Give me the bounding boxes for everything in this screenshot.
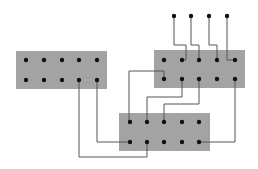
pin-bottom	[162, 140, 166, 144]
wiring-diagram	[0, 0, 258, 169]
pin-right	[215, 58, 219, 62]
pin-bottom	[180, 140, 184, 144]
pin-left	[77, 58, 81, 62]
pin-bottom	[180, 120, 184, 124]
pin-right	[197, 77, 201, 81]
pin-right	[215, 77, 219, 81]
pin-left	[60, 58, 64, 62]
pin-left	[42, 78, 46, 82]
pin-right	[197, 58, 201, 62]
pin-left	[95, 58, 99, 62]
pin-left	[60, 78, 64, 82]
pin-bottom	[128, 120, 132, 124]
terminal-pin	[207, 14, 211, 18]
pin-bottom	[145, 140, 149, 144]
pin-right	[180, 58, 184, 62]
pin-bottom	[197, 140, 201, 144]
pin-right	[162, 58, 166, 62]
pin-left	[77, 78, 81, 82]
block-left	[16, 51, 107, 89]
pin-bottom	[197, 120, 201, 124]
pin-left	[24, 78, 28, 82]
terminal-pin	[189, 14, 193, 18]
pin-left	[95, 78, 99, 82]
pin-right	[233, 58, 237, 62]
pin-bottom	[162, 120, 166, 124]
pin-left	[24, 58, 28, 62]
pin-right	[162, 77, 166, 81]
pin-bottom	[145, 120, 149, 124]
terminal-pin	[172, 14, 176, 18]
pin-right	[233, 77, 237, 81]
pin-bottom	[128, 140, 132, 144]
pin-right	[180, 77, 184, 81]
terminal-pin	[225, 14, 229, 18]
pin-left	[42, 58, 46, 62]
